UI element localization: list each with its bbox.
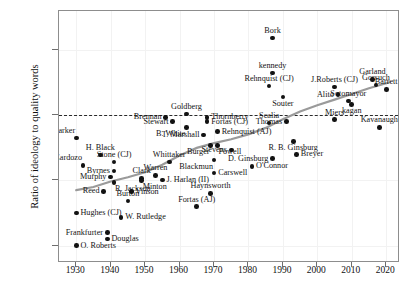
point-label: Frankfurter: [66, 228, 103, 236]
data-point: [101, 189, 106, 194]
point-label: Parker: [58, 127, 75, 135]
data-point: [105, 230, 110, 235]
data-point: [170, 119, 175, 124]
data-point: [153, 173, 158, 178]
point-label: Sotomayor: [330, 90, 366, 98]
data-point: [201, 133, 206, 138]
point-label: Reed: [83, 187, 100, 195]
point-label: Souter: [272, 100, 293, 108]
data-point: [74, 136, 79, 141]
point-label: Minton: [143, 183, 167, 191]
x-tick-mark: [247, 262, 248, 267]
data-point: [294, 152, 299, 157]
point-label: Goldberg: [171, 103, 202, 111]
point-label: Breyer: [301, 150, 323, 158]
point-label: Whittaker: [153, 151, 186, 159]
point-label: T. Marshall: [162, 131, 200, 139]
data-point: [250, 164, 255, 169]
point-label: Stevens: [202, 146, 227, 154]
point-label: W. Rutledge: [125, 213, 166, 221]
data-point: [215, 129, 220, 134]
x-tick-mark: [179, 262, 180, 267]
x-tick-mark: [75, 262, 76, 267]
x-tick-mark: [385, 262, 386, 267]
point-label: Stewart: [143, 118, 168, 126]
data-point: [332, 117, 337, 122]
x-tick-mark: [110, 262, 111, 267]
point-label: O'Connor: [256, 162, 288, 170]
point-label: J.Roberts (CJ): [311, 76, 358, 84]
data-point: [284, 119, 289, 124]
y-axis-label: Ratio of ideology to quality words: [29, 17, 40, 257]
point-label: Fortas (CJ): [211, 118, 248, 126]
trend-line: [59, 11, 399, 262]
point-label: O. Roberts: [80, 242, 115, 250]
point-label: Blackmun: [179, 163, 213, 171]
point-label: kennedy: [259, 62, 287, 70]
x-tick-mark: [144, 262, 145, 267]
x-tick-mark: [316, 262, 317, 267]
point-label: Bork: [264, 27, 280, 35]
data-point: [384, 87, 389, 92]
point-label: Fortas (AJ): [178, 195, 215, 203]
data-point: [74, 211, 79, 216]
data-point: [194, 204, 199, 209]
x-tick-mark: [213, 262, 214, 267]
x-tick-mark: [282, 262, 283, 267]
chart-container: Ratio of ideology to quality words 0.30.…: [0, 0, 413, 297]
data-point: [167, 160, 172, 165]
point-label: Thomas: [256, 118, 282, 126]
point-label: Warren: [143, 164, 167, 172]
point-label: Cardozo: [58, 154, 82, 162]
point-label: Murphy: [80, 173, 106, 181]
point-label: D. Ginsburg: [228, 155, 268, 163]
point-label: Stone (CJ): [97, 151, 132, 159]
data-point: [74, 243, 79, 248]
point-label: Haynsworth: [191, 182, 231, 190]
point-label: Carswell: [218, 169, 247, 177]
point-label: kagan: [342, 107, 362, 115]
plot-area: ParkerCardozoH. BlackByrnesStone (CJ)Mur…: [58, 10, 399, 262]
point-label: Hughes (CJ): [80, 209, 121, 217]
point-label: Rehnquist (CJ): [244, 75, 293, 83]
point-label: Kavanaugh: [361, 116, 398, 124]
point-label: Barrett: [375, 78, 398, 86]
data-point: [81, 163, 86, 168]
data-point: [377, 125, 382, 130]
point-label: Rehnquist (AJ): [222, 127, 272, 135]
x-tick-mark: [351, 262, 352, 267]
